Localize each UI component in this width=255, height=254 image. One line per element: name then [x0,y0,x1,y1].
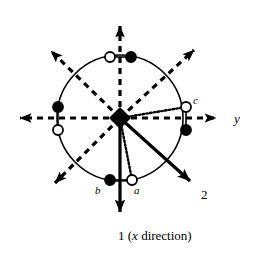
figure-root: a b c y 2 1 (x direction) [0,0,255,254]
point-right-open-c [181,102,191,112]
label-b: b [95,185,101,196]
point-left-open [53,125,63,135]
label-a: a [134,185,140,196]
point-left-filled [53,102,63,112]
label-c: c [193,95,198,106]
label-x-direction-text: 1 (x direction) [118,228,192,243]
diagonal-dashed-lower-left-axis [55,118,120,183]
stereographic-projection-svg [0,0,255,254]
point-top-open [105,52,115,62]
label-axis-2: 2 [201,188,208,201]
point-bottom-filled-b [105,175,115,185]
label-y-axis: y [234,112,240,125]
label-x-direction: 1 (x direction) [118,229,192,242]
point-right-filled [181,125,191,135]
point-top-filled [126,52,136,62]
